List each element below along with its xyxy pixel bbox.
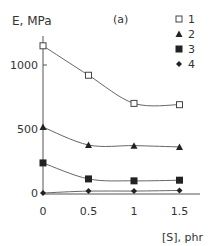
x-tick-label: 0.5 bbox=[80, 205, 98, 218]
chart: 05001000 00.511.5 E, MPa (a) [S], phr 12… bbox=[0, 0, 214, 246]
x-axis-label: [S], phr bbox=[162, 231, 204, 244]
legend-label: 2 bbox=[188, 28, 195, 41]
series-3 bbox=[40, 159, 184, 184]
x-tick-label: 1 bbox=[131, 205, 138, 218]
x-tick-label: 0 bbox=[40, 205, 47, 218]
y-tick-label: 1000 bbox=[10, 59, 38, 72]
series-4 bbox=[40, 187, 183, 196]
axes bbox=[43, 36, 200, 194]
y-tick-label: 500 bbox=[17, 123, 38, 136]
series-2 bbox=[40, 124, 184, 150]
legend-label: 4 bbox=[188, 58, 195, 71]
legend-label: 1 bbox=[188, 13, 195, 26]
series-1 bbox=[40, 43, 183, 108]
chart-title: (a) bbox=[113, 13, 128, 26]
y-tick-label: 0 bbox=[31, 187, 38, 200]
x-tick-label: 1.5 bbox=[171, 205, 189, 218]
legend-label: 3 bbox=[188, 43, 195, 56]
y-axis-label: E, MPa bbox=[12, 14, 52, 28]
legend: 1234 bbox=[176, 13, 196, 71]
